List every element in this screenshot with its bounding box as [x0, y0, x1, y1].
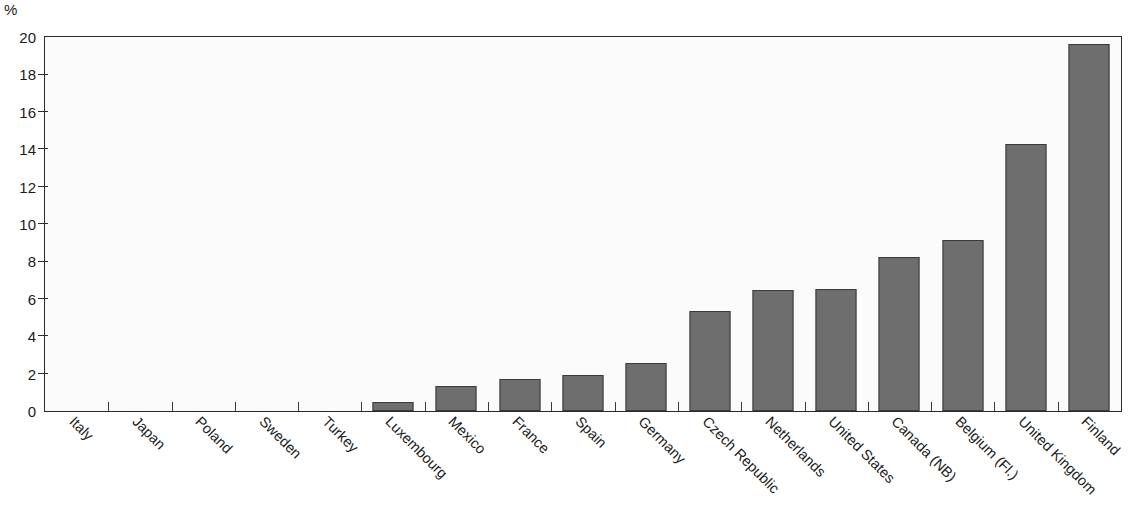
bar[interactable] — [436, 386, 477, 411]
bar-slot — [994, 37, 1057, 411]
chart-figure: % 02468101214161820 ItalyJapanPolandSwed… — [0, 0, 1142, 525]
bar-slot — [678, 37, 741, 411]
bar[interactable] — [1069, 44, 1110, 411]
x-axis-category-label: Canada (NB) — [889, 414, 959, 484]
bar-slot — [298, 37, 361, 411]
bar[interactable] — [942, 240, 983, 411]
bar[interactable] — [562, 375, 603, 411]
y-axis-tick-label: 16 — [0, 105, 36, 120]
x-axis-category-label: Luxembourg — [383, 414, 450, 481]
y-axis-tick-label: 12 — [0, 180, 36, 195]
bar-slot — [551, 37, 614, 411]
bars-layer — [45, 37, 1121, 411]
x-axis-category-label: Netherlands — [763, 414, 829, 480]
y-axis-tick-label: 2 — [0, 367, 36, 382]
bar-slot — [425, 37, 488, 411]
y-axis-tick-label: 4 — [0, 329, 36, 344]
bar[interactable] — [373, 402, 414, 411]
x-axis-category-label: Germany — [636, 414, 688, 466]
bar[interactable] — [1006, 144, 1047, 411]
x-axis-category-label: Belgium (Fl.) — [952, 414, 1020, 482]
bar-slot — [172, 37, 235, 411]
bar[interactable] — [752, 290, 793, 411]
bar[interactable] — [689, 311, 730, 411]
x-axis-category-label: Poland — [193, 414, 235, 456]
bar[interactable] — [626, 363, 667, 411]
x-axis-category-label: United States — [826, 414, 898, 486]
x-axis-labels: ItalyJapanPolandSwedenTurkeyLuxembourgMe… — [45, 414, 1121, 524]
y-axis-tick-label: 20 — [0, 30, 36, 45]
bar-slot — [868, 37, 931, 411]
x-axis-category-label: France — [509, 414, 551, 456]
x-axis-category-label: Turkey — [320, 414, 361, 455]
bar-slot — [45, 37, 108, 411]
bar-slot — [108, 37, 171, 411]
bar-slot — [805, 37, 868, 411]
y-axis-tick-label: 10 — [0, 217, 36, 232]
x-axis-category-label: Mexico — [446, 414, 489, 457]
x-axis-category-label: Finland — [1079, 414, 1123, 458]
bar-slot — [741, 37, 804, 411]
bar[interactable] — [816, 289, 857, 411]
bar-slot — [931, 37, 994, 411]
y-axis-tick-label: 8 — [0, 254, 36, 269]
y-axis-tick-label: 0 — [0, 404, 36, 419]
x-axis-category-label: Sweden — [256, 414, 303, 461]
bar-slot — [1058, 37, 1121, 411]
bar-slot — [615, 37, 678, 411]
bar-slot — [235, 37, 298, 411]
y-axis-tick-label: 14 — [0, 142, 36, 157]
bar[interactable] — [879, 257, 920, 411]
bar[interactable] — [499, 379, 540, 411]
x-axis-category-label: Spain — [573, 414, 609, 450]
bar-slot — [361, 37, 424, 411]
y-axis-tick-label: 6 — [0, 292, 36, 307]
bar-slot — [488, 37, 551, 411]
y-axis-unit-label: % — [4, 2, 17, 17]
y-axis-tick-label: 18 — [0, 67, 36, 82]
x-axis-category-label: Italy — [66, 414, 95, 443]
x-axis-category-label: Japan — [130, 414, 168, 452]
